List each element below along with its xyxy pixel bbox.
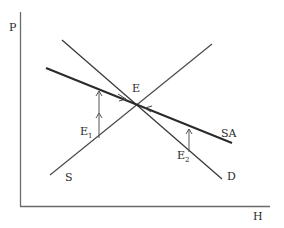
e1-subscript: 1 bbox=[88, 132, 92, 140]
e1-label: E bbox=[80, 125, 88, 138]
supply-demand-diagram: P H E SA D S E 1 E 2 bbox=[0, 0, 284, 228]
x-axis-label: H bbox=[253, 210, 263, 223]
equilibrium-label: E bbox=[132, 82, 140, 95]
supply-label: S bbox=[65, 171, 73, 184]
e2-label: E bbox=[177, 149, 185, 162]
supply-adjusted-label: SA bbox=[221, 127, 238, 140]
adjusted-supply-curve bbox=[46, 68, 232, 143]
diagram-canvas: P H E SA D S E 1 E 2 bbox=[0, 0, 284, 228]
demand-curve bbox=[62, 40, 222, 179]
e2-subscript: 2 bbox=[185, 156, 189, 164]
y-axis-label: P bbox=[9, 21, 17, 34]
demand-label: D bbox=[227, 170, 236, 183]
